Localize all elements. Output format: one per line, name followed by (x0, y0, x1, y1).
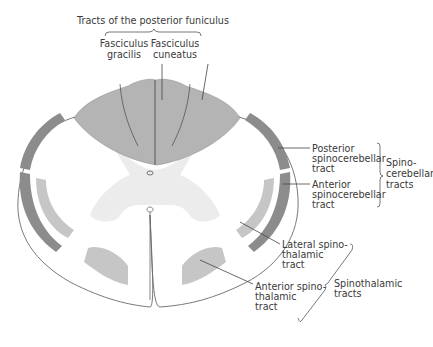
fasciculus-cuneatus-label-1: Fasciculus (151, 38, 200, 49)
spinocerebellar-group-label-1: Spino- (386, 157, 416, 168)
fasciculus-gracilis-label-1: Fasciculus (100, 38, 149, 49)
fasciculus-gracilis-label-2: gracilis (107, 49, 141, 60)
title-brace (105, 29, 201, 36)
fasciculus-cuneatus-label-2: cuneatus (153, 49, 197, 60)
anterior-spinothalamic-label-3: tract (255, 301, 278, 312)
title: Tracts of the posterior funiculus (76, 15, 229, 26)
posterior-spinocerebellar-label-3: tract (312, 163, 335, 174)
anterior-spinocerebellar-label-3: tract (312, 199, 335, 210)
spinothalamic-group-label-2: tracts (334, 288, 362, 299)
spinal-cord-diagram: Tracts of the posterior funiculus Fascic… (0, 0, 433, 347)
spinocerebellar-group-label-2: cerebellar (386, 168, 433, 179)
lateral-spinothalamic-label-3: tract (282, 259, 305, 270)
spinocerebellar-group-label-3: tracts (386, 179, 414, 190)
